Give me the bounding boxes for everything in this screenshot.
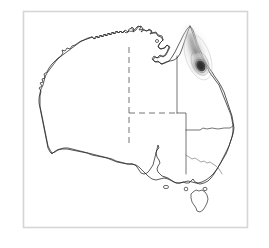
island-melville: [129, 29, 134, 32]
island-king: [184, 187, 188, 191]
island-flinders: [203, 187, 207, 190]
island-kangaroo: [163, 185, 168, 188]
island-groote-eylandt: [155, 40, 158, 43]
figure-canvas: [0, 0, 269, 248]
